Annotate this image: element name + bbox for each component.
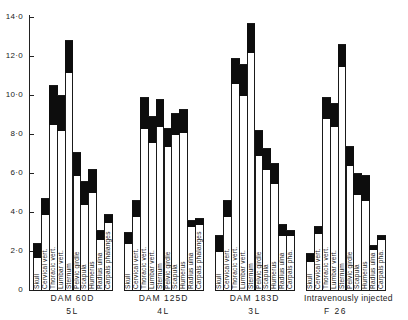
- bar-category-label: Radius ulna: [188, 252, 195, 289]
- bar-category-label: Humerus: [180, 261, 187, 289]
- bar-category-label: Scapula: [81, 264, 88, 289]
- bar-category-label: Radius ulna: [97, 252, 104, 289]
- bar-category-label: Humerus: [89, 261, 96, 289]
- group-subtitle: F 26: [306, 306, 366, 316]
- label-baseline-box: [33, 289, 113, 291]
- y-tick-label: 14·0: [0, 12, 23, 21]
- bar-range-segment: [270, 164, 279, 184]
- y-tick: [29, 173, 34, 174]
- bar-category-label: Thoracic vert.: [323, 247, 330, 289]
- bar-category-label: Cervical vert.: [42, 248, 49, 289]
- y-tick: [29, 134, 34, 135]
- bar-category-label: Scapula: [354, 264, 361, 289]
- bar-category-label: Humerus: [271, 261, 278, 289]
- bar-range-segment: [247, 24, 256, 53]
- y-tick-label: 6·0: [0, 168, 23, 177]
- bar-category-label: Humerus: [362, 261, 369, 289]
- y-tick-label: 10·0: [0, 90, 23, 99]
- y-tick-label: 4·0: [0, 207, 23, 216]
- bar-category-label: Cervical vert.: [133, 248, 140, 289]
- bar-chart: 02·04·06·08·010·012·014·0 SkullCervical …: [0, 0, 408, 320]
- bar-category-label: Scapula: [263, 264, 270, 289]
- bar-category-label: Scapula: [172, 264, 179, 289]
- bar-category-label: Sternum: [248, 263, 255, 289]
- bar-category-label: Lumbar vert.: [331, 250, 338, 289]
- bar-category-label: Skull: [125, 274, 132, 289]
- bar-range-segment: [156, 100, 165, 127]
- bar-category-label: Lumbar vert.: [240, 250, 247, 289]
- bar-category-label: Carpals phalanges: [105, 231, 112, 289]
- bar-range-segment: [286, 231, 295, 237]
- label-baseline-box: [306, 289, 386, 291]
- bar-category-label: Skull: [307, 274, 314, 289]
- group-subtitle: 3L: [225, 306, 285, 316]
- bar-range-segment: [104, 215, 113, 223]
- y-tick-label: 8·0: [0, 129, 23, 138]
- bar-category-label: Carpals pha.: [378, 250, 385, 289]
- bar-category-label: Skull: [34, 274, 41, 289]
- bar-category-label: Radius ulna: [279, 252, 286, 289]
- bar-range-segment: [179, 110, 188, 133]
- bar-range-segment: [361, 176, 370, 201]
- bar-range-segment: [65, 41, 74, 72]
- bar-category-label: Carpals phalanges: [196, 231, 203, 289]
- bar-category-label: Sternum: [339, 263, 346, 289]
- y-tick: [29, 212, 34, 213]
- group-subtitle: 4L: [134, 306, 194, 316]
- bar-category-label: Thoracic vert.: [50, 247, 57, 289]
- y-tick: [29, 56, 34, 57]
- bar-category-label: Lumbar vert.: [149, 250, 156, 289]
- bar-category-label: Carpals pha.: [287, 250, 294, 289]
- y-tick: [29, 17, 34, 18]
- bar-range-segment: [88, 170, 97, 193]
- bar-category-label: Cervical vert.: [224, 248, 231, 289]
- group-title: Intravenously injected: [294, 293, 404, 303]
- bar-category-label: Thoracic vert.: [232, 247, 239, 289]
- y-tick-label: 12·0: [0, 51, 23, 60]
- y-tick-label: 2·0: [0, 246, 23, 255]
- bar-category-label: Radius ulna: [370, 252, 377, 289]
- bar-range-segment: [377, 236, 386, 240]
- bar-range-segment: [346, 147, 355, 167]
- bar-range-segment: [338, 45, 347, 66]
- bar-category-label: Cervical vert.: [315, 248, 322, 289]
- bar-category-label: Skull: [216, 274, 223, 289]
- label-baseline-box: [215, 289, 295, 291]
- y-tick: [29, 95, 34, 96]
- bar-range-segment: [195, 219, 204, 225]
- bar-category-label: Lumbar vert.: [58, 250, 65, 289]
- group-subtitle: 5L: [43, 306, 103, 316]
- bar-range-segment: [73, 153, 82, 176]
- label-baseline-box: [124, 289, 204, 291]
- bar-category-label: Sternum: [66, 263, 73, 289]
- bar-category-label: Sternum: [157, 263, 164, 289]
- bar-category-label: Thoracic vert.: [141, 247, 148, 289]
